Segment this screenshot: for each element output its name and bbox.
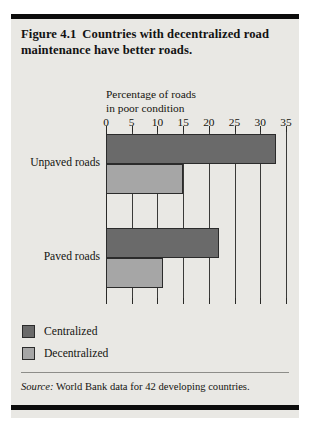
tickmark-top-20: [209, 126, 210, 132]
legend-swatch-decentralized: [22, 347, 35, 360]
x-axis-title-line1: Percentage of roads: [106, 88, 196, 102]
source-label: Source:: [21, 381, 54, 392]
tickmark-bottom-15: [183, 298, 184, 304]
x-axis-tick-labels: 05101520253035: [106, 116, 286, 130]
bar-decentralized-paved-roads: [106, 258, 163, 288]
legend-swatch-centralized: [22, 325, 35, 338]
x-axis-title-line2: in poor condition: [106, 102, 196, 116]
legend-label-decentralized: Decentralized: [44, 347, 108, 360]
legend-item-centralized: Centralized: [22, 322, 108, 341]
tickmark-bottom-20: [209, 298, 210, 304]
tickmark-top-30: [260, 126, 261, 132]
tickmark-top-10: [157, 126, 158, 132]
source-separator: [21, 372, 289, 373]
tickmark-bottom-35: [286, 298, 287, 304]
category-label-unpaved-roads: Unpaved roads: [30, 156, 100, 169]
tickmark-top-25: [235, 126, 236, 132]
tickmark-bottom-5: [132, 298, 133, 304]
source-note: Source: World Bank data for 42 developin…: [21, 381, 250, 392]
bar-centralized-paved-roads: [106, 228, 219, 258]
bar-decentralized-unpaved-roads: [106, 164, 183, 194]
legend-item-decentralized: Decentralized: [22, 344, 108, 363]
category-label-paved-roads: Paved roads: [44, 250, 100, 263]
source-text: World Bank data for 42 developing countr…: [54, 381, 250, 392]
chart-legend: CentralizedDecentralized: [22, 322, 108, 366]
bottom-rule: [11, 405, 299, 410]
gridline-35: [286, 132, 287, 298]
tickmark-bottom-25: [235, 298, 236, 304]
tickmark-top-15: [183, 126, 184, 132]
tickmark-top-0: [106, 126, 107, 132]
legend-label-centralized: Centralized: [44, 325, 97, 338]
tickmark-bottom-30: [260, 298, 261, 304]
tickmark-bottom-10: [157, 298, 158, 304]
plot-area: [106, 132, 286, 298]
tickmark-top-5: [132, 126, 133, 132]
tickmark-top-35: [286, 126, 287, 132]
tickmark-bottom-0: [106, 298, 107, 304]
x-axis-title: Percentage of roads in poor condition: [106, 88, 196, 115]
bar-centralized-unpaved-roads: [106, 134, 276, 164]
